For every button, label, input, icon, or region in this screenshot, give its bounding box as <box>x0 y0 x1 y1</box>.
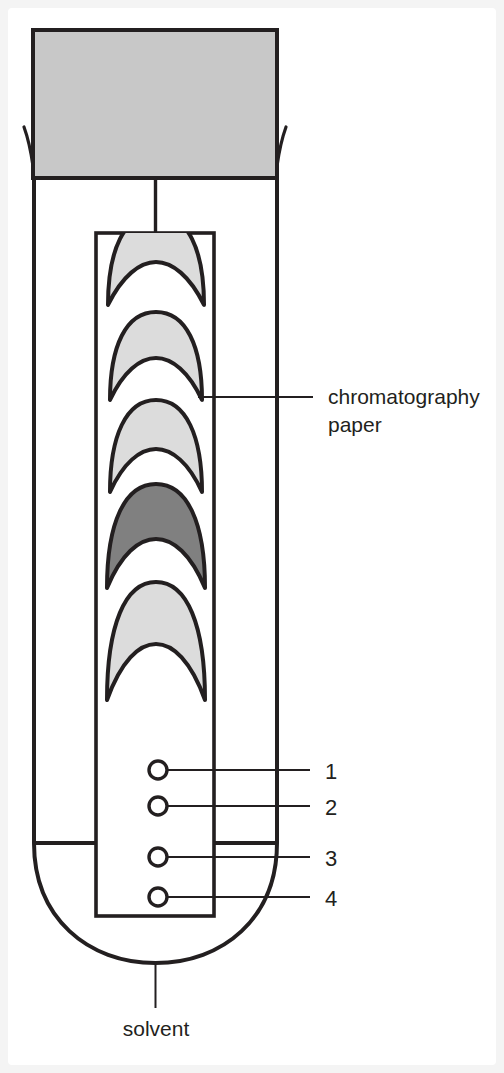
callout-label-3: 3 <box>325 846 337 871</box>
chromatography-diagram: chromatography paper 1 2 3 4 solvent <box>0 0 504 1073</box>
callout-label-2: 2 <box>325 795 337 820</box>
solvent-label: solvent <box>123 1017 190 1040</box>
chromatography-paper-label-line2: paper <box>328 413 382 436</box>
callout-marker-2 <box>149 797 167 815</box>
callout-label-4: 4 <box>325 886 337 911</box>
chromatography-paper-label-line1: chromatography <box>328 385 480 408</box>
callout-label-1: 1 <box>325 759 337 784</box>
figure-root: chromatography paper 1 2 3 4 solvent <box>0 0 504 1073</box>
stopper <box>33 30 277 178</box>
callout-marker-1 <box>149 761 167 779</box>
callout-marker-4 <box>149 888 167 906</box>
callout-marker-3 <box>149 848 167 866</box>
